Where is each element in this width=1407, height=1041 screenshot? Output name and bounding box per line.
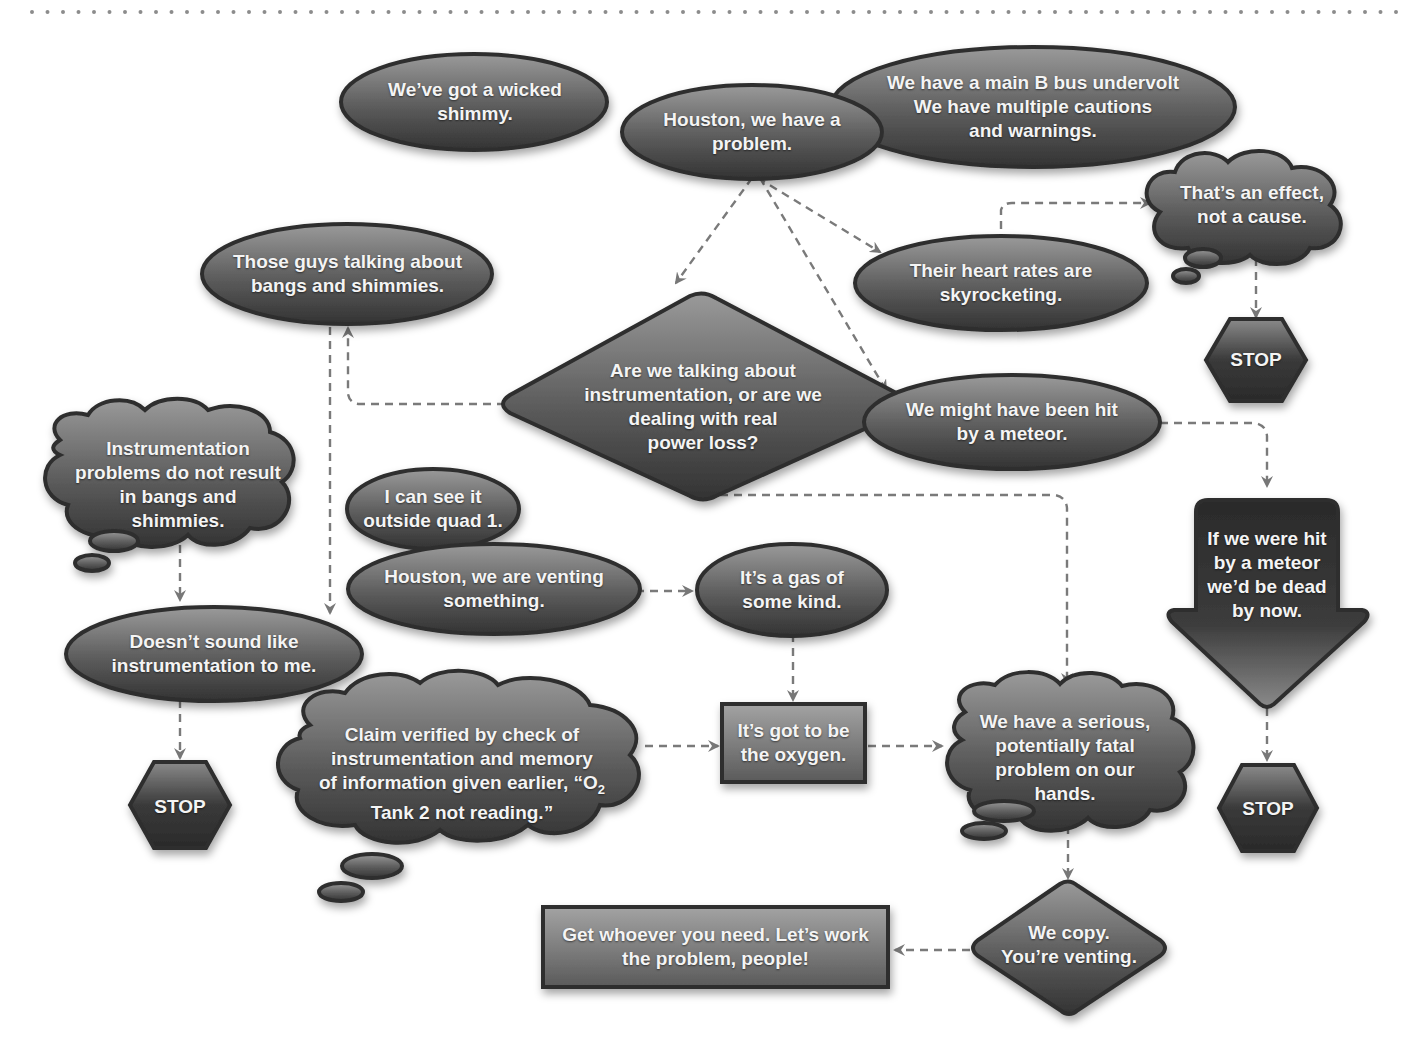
node-effect-not-cause-label: That’s an effect, not a cause. [1162,178,1342,232]
node-claim-verified-label: Claim verified by check of instrumentati… [292,724,632,824]
thought-bubble-dot [75,555,109,571]
edge-houston-to-question [676,178,752,283]
node-bangs-shimmies-label: Those guys talking about bangs and shimm… [210,247,485,301]
claim-line-3-subscript: 2 [598,781,605,796]
edge-meteor-to-dead [1160,423,1267,486]
node-gas-of-some-kind-label: It’s a gas of some kind. [707,563,877,617]
claim-line-3-text: of information given earlier, “O [319,772,598,793]
claim-line-2: instrumentation and memory [331,747,593,771]
node-meteor-dead-label: If we were hit by a meteor we’d be dead … [1196,525,1338,625]
node-we-copy-label: We copy. You’re venting. [984,918,1154,972]
node-instrumentation-question-label: Are we talking about instrumentation, or… [540,357,866,457]
node-stop-top-right-label: STOP [1216,345,1296,375]
node-wicked-shimmy-label: We’ve got a wicked shimmy. [380,70,570,134]
node-meteor-hit-label: We might have been hit by a meteor. [878,395,1146,449]
thought-bubble-dot [342,854,402,878]
node-got-to-be-oxygen-label: It’s got to be the oxygen. [722,716,865,770]
node-stop-right-label: STOP [1228,794,1308,824]
claim-line-3: of information given earlier, “O2 [319,771,605,802]
node-stop-left-label: STOP [140,792,220,822]
thought-bubble-dot [319,883,363,901]
node-work-the-problem-label: Get whoever you need. Let’s work the pro… [543,920,888,974]
edge-question-to-bangs [348,328,505,404]
edge-houston-to-heart-rates [758,178,880,252]
node-main-b-bus-label: We have a main B bus undervolt We have m… [855,70,1211,144]
thought-bubble-dot [1173,269,1199,283]
node-see-outside-quad-label: I can see it outside quad 1. [360,482,506,536]
thought-bubble-dot [962,823,1006,839]
claim-line-1: Claim verified by check of [345,723,579,747]
node-instrumentation-problems-label: Instrumentation problems do not result i… [60,435,296,535]
node-houston-problem-label: Houston, we have a problem. [640,104,864,160]
claim-line-4: Tank 2 not reading.” [371,801,553,825]
node-serious-problem-label: We have a serious, potentially fatal pro… [960,708,1170,808]
node-not-instrumentation-label: Doesn’t sound like instrumentation to me… [88,627,340,681]
node-heart-rates-label: Their heart rates are skyrocketing. [875,256,1127,310]
node-venting-something-label: Houston, we are venting something. [360,562,628,616]
thought-bubble-dot [1185,249,1221,267]
